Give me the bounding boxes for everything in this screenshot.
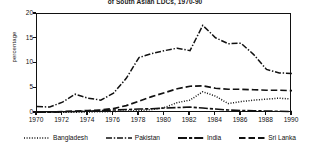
x-tick-mark	[163, 112, 164, 115]
legend-item-india[interactable]: India	[178, 134, 221, 142]
x-tick-mark	[290, 112, 291, 115]
y-axis-ticks: 05101520	[0, 13, 33, 112]
legend-item-sri-lanka[interactable]: Sri Lanka	[239, 134, 296, 142]
legend-label: India	[207, 134, 221, 142]
x-tick-mark	[137, 112, 138, 115]
x-tick-mark	[214, 112, 215, 115]
y-tick-label: 20	[3, 10, 33, 16]
chart-container: of South Asian LDCs, 1970-90 percentage …	[0, 0, 310, 149]
plot-area	[36, 13, 291, 112]
series-lines	[37, 14, 292, 113]
legend-label: Bangladesh	[53, 134, 88, 142]
x-tick-mark	[35, 112, 36, 115]
x-tick-mark	[239, 112, 240, 115]
dotted-line-key-icon	[24, 134, 50, 142]
chart-title: of South Asian LDCs, 1970-90	[0, 0, 310, 6]
x-tick-label: 1990	[276, 116, 306, 124]
x-axis-ticks: 1970197219741976197819801982198419861988…	[36, 113, 291, 127]
series-line-pakistan	[37, 25, 292, 107]
y-tick-label: 5	[3, 84, 33, 90]
y-tick-label: 0	[3, 109, 33, 115]
dashed-line-key-icon	[239, 134, 265, 142]
x-tick-mark	[112, 112, 113, 115]
x-tick-mark	[188, 112, 189, 115]
legend-item-pakistan[interactable]: Pakistan	[106, 134, 160, 142]
x-tick-mark	[86, 112, 87, 115]
long-dash-short-line-key-icon	[178, 134, 204, 142]
x-tick-mark	[265, 112, 266, 115]
y-tick-label: 10	[3, 59, 33, 65]
chart-legend: BangladeshPakistanIndiaSri Lanka	[24, 131, 296, 145]
x-tick-mark	[61, 112, 62, 115]
legend-label: Sri Lanka	[268, 134, 296, 142]
legend-item-bangladesh[interactable]: Bangladesh	[24, 134, 88, 142]
legend-label: Pakistan	[135, 134, 160, 142]
dash-dot-line-key-icon	[106, 134, 132, 142]
y-tick-label: 15	[3, 35, 33, 41]
